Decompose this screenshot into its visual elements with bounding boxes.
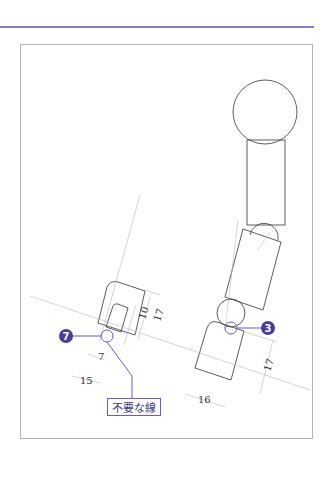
mid-body-rect bbox=[225, 229, 281, 310]
dim-7: 7 bbox=[98, 351, 104, 362]
dim-17-left: 17 bbox=[151, 307, 165, 323]
marker-7: 7 bbox=[59, 329, 73, 343]
unnecessary-line-callout: 不要な線 bbox=[107, 398, 161, 416]
head-circle bbox=[233, 80, 297, 144]
dim-16: 16 bbox=[198, 394, 211, 405]
svg-text:7: 7 bbox=[63, 331, 70, 342]
svg-text:3: 3 bbox=[265, 323, 272, 334]
marker-3: 3 bbox=[261, 321, 275, 335]
dim-15: 15 bbox=[80, 375, 93, 386]
dim-17-right: 17 bbox=[261, 357, 275, 373]
callout-label: 不要な線 bbox=[112, 399, 156, 415]
callout-circle-7 bbox=[101, 330, 113, 342]
dim-10: 10 bbox=[136, 305, 150, 321]
technical-drawing: 7 15 10 17 17 16 7 3 bbox=[0, 0, 329, 481]
upper-body-rect bbox=[247, 140, 285, 225]
